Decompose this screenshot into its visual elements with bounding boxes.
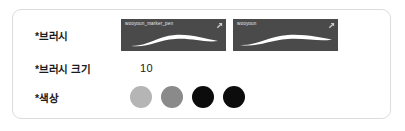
color-field bbox=[121, 86, 390, 108]
color-label: *색상 bbox=[13, 90, 121, 105]
expand-arrow-icon-1[interactable] bbox=[328, 22, 335, 29]
color-swatch-2[interactable] bbox=[192, 86, 214, 108]
brush-thumbnail-list: wooyoun_marker_pen wooyoun bbox=[121, 19, 390, 51]
brush-thumbnail-0[interactable]: wooyoun_marker_pen bbox=[121, 19, 226, 51]
brush-label: *브러시 bbox=[13, 28, 121, 43]
brush-size-label: *브러시 크기 bbox=[13, 61, 121, 76]
brush-stroke-preview-icon-1 bbox=[233, 25, 338, 51]
expand-arrow-icon-0[interactable] bbox=[216, 22, 223, 29]
brush-stroke-preview-icon-0 bbox=[121, 25, 226, 51]
brush-settings-panel: *브러시 wooyoun_marker_pen wooyoun bbox=[12, 9, 391, 119]
brush-size-field: 10 bbox=[121, 62, 390, 74]
brush-thumbnail-1[interactable]: wooyoun bbox=[233, 19, 338, 51]
color-swatch-list bbox=[121, 86, 254, 108]
form-row-color: *색상 bbox=[13, 82, 390, 112]
brush-size-value[interactable]: 10 bbox=[121, 62, 153, 74]
color-swatch-3[interactable] bbox=[223, 86, 245, 108]
color-swatch-1[interactable] bbox=[161, 86, 183, 108]
form-row-brush-size: *브러시 크기 10 bbox=[13, 56, 390, 80]
form-row-brush: *브러시 wooyoun_marker_pen wooyoun bbox=[13, 18, 390, 52]
color-swatch-0[interactable] bbox=[130, 86, 152, 108]
